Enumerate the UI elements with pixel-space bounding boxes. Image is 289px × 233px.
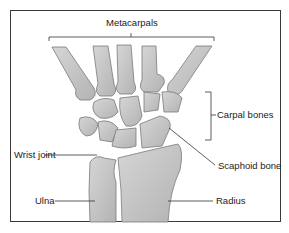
label-wrist-joint: Wrist joint bbox=[14, 150, 56, 160]
metacarpal-2 bbox=[93, 46, 116, 96]
label-scaphoid-bone: Scaphoid bone bbox=[218, 161, 281, 171]
label-ulna: Ulna bbox=[35, 196, 55, 206]
carpal-capitate bbox=[120, 96, 142, 126]
label-carpal-bones: Carpal bones bbox=[217, 110, 274, 120]
carpal-trapezoid bbox=[144, 92, 160, 112]
label-metacarpals: Metacarpals bbox=[106, 18, 158, 28]
metacarpal-5 bbox=[168, 46, 213, 96]
metacarpal-4 bbox=[140, 46, 164, 92]
carpal-scaphoid bbox=[140, 116, 170, 148]
carpal-hamate bbox=[93, 98, 118, 118]
radius-bone bbox=[118, 144, 182, 222]
metacarpal-1 bbox=[52, 47, 95, 100]
ulna-bone bbox=[89, 157, 116, 222]
metacarpals-bracket bbox=[49, 33, 214, 41]
carpal-trapezium bbox=[162, 92, 182, 112]
label-radius: Radius bbox=[216, 196, 246, 206]
carpal-bones-bracket bbox=[205, 92, 216, 140]
metacarpal-3 bbox=[116, 45, 135, 94]
carpal-pisiform bbox=[79, 117, 98, 136]
carpal-lunate bbox=[112, 128, 136, 148]
